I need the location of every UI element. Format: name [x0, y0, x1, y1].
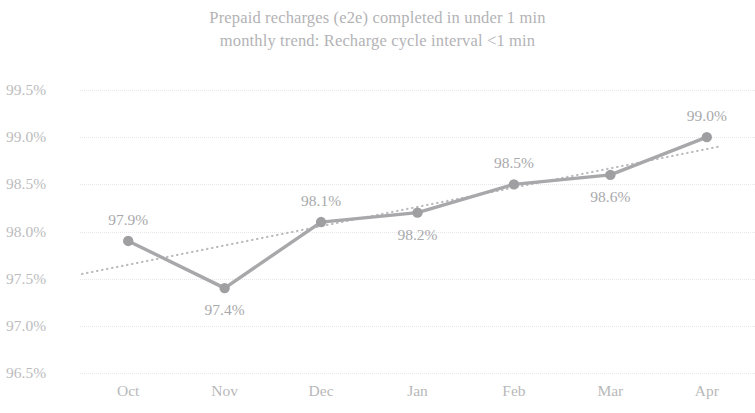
chart-title-line-1: Prepaid recharges (e2e) completed in und… — [0, 6, 755, 29]
data-point-label: 98.1% — [276, 192, 366, 209]
x-axis-tick-label-feb: Feb — [474, 382, 554, 399]
y-axis-tick-label: 98.5% — [6, 176, 74, 192]
x-axis-tick-label-mar: Mar — [570, 382, 650, 399]
data-point-label: 99.0% — [662, 107, 752, 124]
x-axis-tick-label-jan: Jan — [378, 382, 458, 399]
gridline — [80, 373, 755, 374]
y-axis-tick-label: 98.0% — [6, 224, 74, 240]
gridline — [80, 279, 755, 280]
y-axis-tick-label: 96.5% — [6, 365, 74, 381]
y-axis-tick-label: 99.5% — [6, 82, 74, 98]
x-axis-tick-label-nov: Nov — [185, 382, 265, 399]
data-point-label: 98.5% — [469, 154, 559, 171]
y-axis-tick-label: 97.5% — [6, 271, 74, 287]
x-axis-tick-label-apr: Apr — [667, 382, 747, 399]
data-point-label: 97.4% — [180, 301, 270, 318]
gridline — [80, 137, 755, 138]
y-axis-tick-label: 99.0% — [6, 129, 74, 145]
chart-container: Prepaid recharges (e2e) completed in und… — [0, 0, 755, 413]
chart-title-line-2: monthly trend: Recharge cycle interval <… — [0, 29, 755, 52]
data-point-label: 98.2% — [373, 226, 463, 243]
x-axis-tick-label-dec: Dec — [281, 382, 361, 399]
gridline — [80, 326, 755, 327]
chart-title: Prepaid recharges (e2e) completed in und… — [0, 6, 755, 52]
data-point-label: 98.6% — [565, 188, 655, 205]
data-point-label: 97.9% — [83, 211, 173, 228]
gridline — [80, 184, 755, 185]
x-axis-tick-label-oct: Oct — [88, 382, 168, 399]
gridline — [80, 90, 755, 91]
y-axis-tick-label: 97.0% — [6, 318, 74, 334]
